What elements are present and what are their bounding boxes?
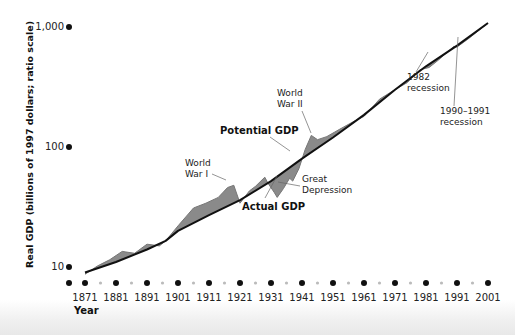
x-tick-label: 1991 <box>444 292 469 303</box>
x-tick-dot <box>454 280 460 286</box>
x-minor-tick <box>130 281 133 284</box>
x-tick-label: 1871 <box>72 292 97 303</box>
x-minor-tick <box>471 281 474 284</box>
annotation-wwii-line2: War II <box>277 99 303 109</box>
x-minor-tick <box>192 281 195 284</box>
annotation-wwi-line1: World <box>185 158 211 168</box>
x-tick-dot <box>268 280 274 286</box>
x-minor-tick <box>347 281 350 284</box>
x-tick-label: 1901 <box>165 292 190 303</box>
annotation-great-depression-line2: Depression <box>302 185 352 195</box>
annotation-potential-gdp: Potential GDP <box>220 125 299 136</box>
x-minor-tick <box>223 281 226 284</box>
annotation-1990-line2: recession <box>440 117 483 127</box>
x-tick-label: 1961 <box>351 292 376 303</box>
x-tick-dot <box>299 280 305 286</box>
annotation-wwi-line2: War I <box>185 169 208 179</box>
y-tick-dot <box>66 144 72 150</box>
x-minor-tick <box>99 281 102 284</box>
x-tick-dot <box>392 280 398 286</box>
leader-line <box>212 174 226 180</box>
annotation-great-depression-line1: Great <box>302 174 328 184</box>
y-ticks: 1,000 100 10 <box>35 21 72 272</box>
annotation-1982-line1: 1982 <box>407 72 430 82</box>
x-tick-dot <box>144 280 150 286</box>
x-tick-dot <box>175 280 181 286</box>
leader-line <box>270 137 290 151</box>
x-minor-tick <box>316 281 319 284</box>
y-tick-label: 10 <box>51 261 64 272</box>
x-minor-tick <box>254 281 257 284</box>
y-axis-label: Real GDP (billions of 1997 dollars; rati… <box>24 21 35 268</box>
x-tick-label: 1981 <box>413 292 438 303</box>
x-tick-dot <box>82 280 88 286</box>
x-tick-dot <box>330 280 336 286</box>
x-tick-label: 1941 <box>289 292 314 303</box>
annotation-wwii-line1: World <box>277 88 303 98</box>
x-axis: 1871188118911901191119211931194119511961… <box>66 280 501 303</box>
x-minor-tick <box>378 281 381 284</box>
x-tick-label: 1921 <box>227 292 252 303</box>
y-tick-label: 1,000 <box>35 21 64 32</box>
x-tick-label: 1971 <box>382 292 407 303</box>
x-tick-label: 2001 <box>475 292 500 303</box>
x-tick-label: 1891 <box>134 292 159 303</box>
x-tick-dot <box>113 280 119 286</box>
x-minor-tick <box>409 281 412 284</box>
y-tick-label: 100 <box>45 141 64 152</box>
gdp-chart: Real GDP (billions of 1997 dollars; rati… <box>0 0 515 335</box>
x-tick-dot <box>206 280 212 286</box>
potential-gdp-line <box>85 23 488 273</box>
y-tick-dot <box>66 24 72 30</box>
annotations: World War I World War II Potential GDP A… <box>185 37 490 212</box>
x-tick-dot <box>423 280 429 286</box>
x-tick-label: 1931 <box>258 292 283 303</box>
annotation-1990-line1: 1990–1991 <box>440 106 490 116</box>
annotation-actual-gdp: Actual GDP <box>242 201 305 212</box>
x-tick-dot <box>361 280 367 286</box>
x-tick-label: 1881 <box>103 292 128 303</box>
x-minor-tick <box>161 281 164 284</box>
x-tick-dot <box>485 280 491 286</box>
x-tick-dot <box>237 280 243 286</box>
x-minor-tick <box>440 281 443 284</box>
leader-line <box>302 111 311 133</box>
annotation-1982-line2: recession <box>407 83 450 93</box>
y-tick-dot <box>66 264 72 270</box>
x-origin-dot <box>66 280 72 286</box>
x-axis-label: Year <box>73 305 99 316</box>
x-tick-label: 1911 <box>196 292 221 303</box>
x-minor-tick <box>285 281 288 284</box>
x-tick-label: 1951 <box>320 292 345 303</box>
